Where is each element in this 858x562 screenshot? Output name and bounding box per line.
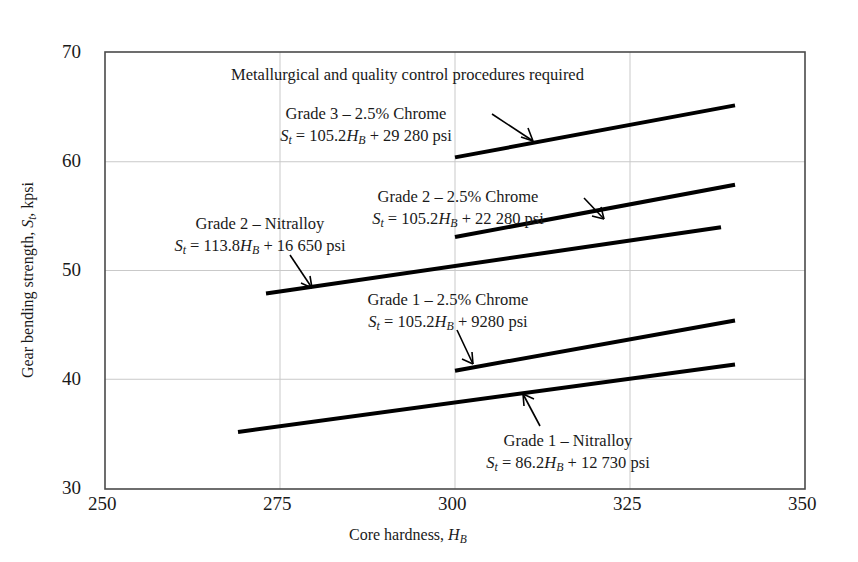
xtick-label-350: 350 (788, 494, 817, 513)
eq-mid: = 105.2 (292, 126, 347, 145)
annotation-grade2-nitralloy-equation: St = 113.8HB + 16 650 psi (115, 235, 405, 259)
y-axis-title: Gear bending strength, St, kpsi (20, 182, 39, 378)
eq-var-h: H (346, 126, 358, 145)
annotation-grade1-nitralloy: Grade 1 – Nitralloy St = 86.2HB + 12 730… (423, 430, 713, 476)
eq-mid: = 113.8 (186, 236, 240, 255)
xtick-label-300: 300 (438, 494, 467, 513)
ytick-label-50: 50 (62, 260, 81, 279)
x-axis-title-var: H (448, 526, 460, 543)
xtick-label-250: 250 (88, 494, 117, 513)
annotation-grade3-chrome-title: Grade 3 – 2.5% Chrome (221, 103, 511, 125)
eq-tail: + 9280 psi (454, 312, 528, 331)
y-axis-title-prefix: Gear bending strength, (19, 228, 36, 378)
y-axis-title-var: S (19, 220, 36, 228)
eq-sub-b: B (450, 216, 457, 230)
ytick-label-60: 60 (62, 151, 81, 170)
chart-page: 70 60 50 40 30 250 275 300 325 350 Core … (0, 0, 858, 562)
eq-var-h: H (544, 453, 556, 472)
eq-var-h: H (435, 312, 447, 331)
eq-var-s: S (368, 312, 376, 331)
y-axis-title-suffix: , kpsi (19, 182, 36, 217)
eq-tail: + 16 650 psi (259, 236, 345, 255)
x-axis-title-prefix: Core hardness, (349, 526, 448, 543)
eq-var-h: H (438, 209, 450, 228)
eq-tail: + 22 280 psi (458, 209, 544, 228)
y-axis-title-sub: t (26, 217, 38, 220)
eq-var-s: S (174, 236, 182, 255)
annotation-note: Metallurgical and quality control proced… (231, 64, 584, 86)
eq-sub-b: B (446, 319, 453, 333)
xtick-label-275: 275 (263, 494, 292, 513)
ytick-label-70: 70 (62, 42, 81, 61)
eq-tail: + 29 280 psi (366, 126, 452, 145)
eq-mid: = 86.2 (498, 453, 544, 472)
annotation-grade2-chrome-title: Grade 2 – 2.5% Chrome (313, 186, 603, 208)
eq-var-h: H (240, 236, 252, 255)
x-axis-title: Core hardness, HB (349, 527, 467, 546)
annotation-grade3-chrome-equation: St = 105.2HB + 29 280 psi (221, 125, 511, 149)
annotation-grade2-nitralloy: Grade 2 – Nitralloy St = 113.8HB + 16 65… (115, 213, 405, 259)
eq-var-s: S (486, 453, 494, 472)
ytick-label-40: 40 (62, 369, 81, 388)
y-axis-title-wrapper: Gear bending strength, St, kpsi (14, 120, 44, 440)
xtick-label-325: 325 (613, 494, 642, 513)
annotation-grade1-chrome: Grade 1 – 2.5% Chrome St = 105.2HB + 928… (303, 289, 593, 335)
annotation-grade1-chrome-equation: St = 105.2HB + 9280 psi (303, 311, 593, 335)
annotation-grade1-nitralloy-equation: St = 86.2HB + 12 730 psi (423, 452, 713, 476)
eq-sub-b: B (358, 133, 365, 147)
annotation-grade1-nitralloy-title: Grade 1 – Nitralloy (423, 430, 713, 452)
eq-mid: = 105.2 (380, 312, 435, 331)
annotation-grade1-chrome-title: Grade 1 – 2.5% Chrome (303, 289, 593, 311)
ytick-label-30: 30 (62, 478, 81, 497)
x-axis-title-sub: B (460, 533, 467, 545)
annotation-grade2-nitralloy-title: Grade 2 – Nitralloy (115, 213, 405, 235)
eq-tail: + 12 730 psi (563, 453, 649, 472)
annotation-grade3-chrome: Grade 3 – 2.5% Chrome St = 105.2HB + 29 … (221, 103, 511, 149)
